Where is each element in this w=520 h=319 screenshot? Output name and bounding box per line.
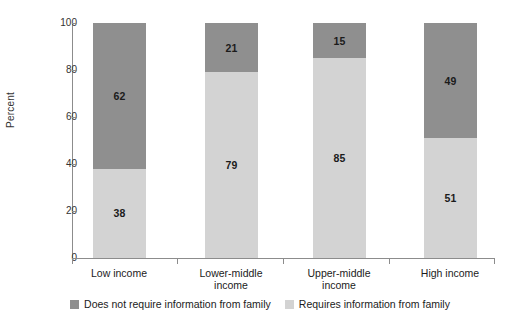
bar-segment-requires-3[interactable]: 51: [424, 138, 477, 258]
bar-value-label: 85: [333, 152, 345, 164]
x-axis-label-upper-middle-income: Upper-middle income: [284, 267, 394, 291]
y-tick-group-80: 80: [0, 70, 77, 71]
legend-item-requires[interactable]: Requires information from family: [285, 298, 450, 310]
bar-segment-requires-1[interactable]: 79: [205, 72, 258, 258]
x-tick-mark-1: [177, 259, 178, 264]
bar-segment-requires-0[interactable]: 38: [93, 169, 146, 258]
x-axis-label-line2: income: [176, 279, 286, 291]
y-tick-group-20: 20: [0, 211, 77, 212]
y-tick-group-40: 40: [0, 164, 77, 165]
bar-value-label: 79: [225, 159, 237, 171]
legend-label-requires: Requires information from family: [299, 298, 450, 310]
bar-value-label: 62: [113, 90, 125, 102]
y-axis-title: Percent: [5, 75, 16, 145]
bar-value-label: 49: [444, 75, 456, 87]
y-tick-group-60: 60: [0, 117, 77, 118]
bar-lower-middle-income[interactable]: 21 79: [205, 23, 258, 258]
x-tick-mark-3: [389, 259, 390, 264]
legend-item-does-not-require[interactable]: Does not require information from family: [70, 298, 271, 310]
legend-swatch-icon-light: [285, 300, 294, 309]
x-tick-mark-start: [72, 259, 73, 264]
bar-segment-requires-2[interactable]: 85: [313, 58, 366, 258]
bar-value-label: 51: [444, 192, 456, 204]
x-axis-label-low-income: Low income: [64, 267, 174, 279]
y-axis-line: [72, 23, 73, 259]
y-tick-group-100: 100: [0, 23, 77, 24]
x-axis-label-line1: Low income: [64, 267, 174, 279]
bar-value-label: 38: [113, 207, 125, 219]
y-tick-mark-100: [72, 23, 77, 24]
y-tick-mark-40: [72, 164, 77, 165]
x-axis-label-line1: Upper-middle: [284, 267, 394, 279]
legend-label-does-not-require: Does not require information from family: [84, 298, 271, 310]
bar-segment-does-not-require-2[interactable]: 15: [313, 23, 366, 58]
bar-segment-does-not-require-0[interactable]: 62: [93, 23, 146, 169]
x-axis-label-line1: High income: [395, 267, 505, 279]
x-axis-label-lower-middle-income: Lower-middle income: [176, 267, 286, 291]
bar-value-label: 15: [333, 35, 345, 47]
y-tick-mark-20: [72, 211, 77, 212]
y-tick-mark-80: [72, 70, 77, 71]
legend-swatch-icon-dark: [70, 300, 79, 309]
x-axis-label-high-income: High income: [395, 267, 505, 279]
bar-high-income[interactable]: 49 51: [424, 23, 477, 258]
stacked-bar-chart: Percent 100 80 60 40 20 0 62 38: [0, 0, 520, 319]
bar-segment-does-not-require-3[interactable]: 49: [424, 23, 477, 138]
chart-legend: Does not require information from family…: [0, 298, 520, 310]
x-axis-label-line2: income: [284, 279, 394, 291]
y-tick-mark-60: [72, 117, 77, 118]
bar-low-income[interactable]: 62 38: [93, 23, 146, 258]
x-tick-mark-end: [494, 259, 495, 264]
bar-upper-middle-income[interactable]: 15 85: [313, 23, 366, 258]
bar-segment-does-not-require-1[interactable]: 21: [205, 23, 258, 72]
x-tick-mark-2: [283, 259, 284, 264]
bar-value-label: 21: [225, 42, 237, 54]
x-axis-label-line1: Lower-middle: [176, 267, 286, 279]
y-tick-group-0: 0: [0, 258, 77, 259]
